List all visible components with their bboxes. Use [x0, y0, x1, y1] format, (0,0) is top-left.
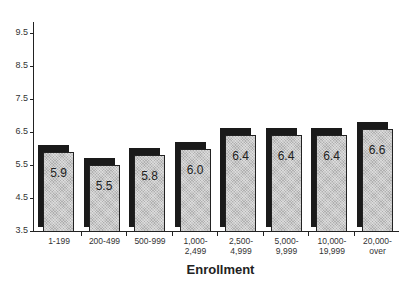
y-tick	[30, 132, 34, 133]
bar-value-label: 6.6	[362, 143, 393, 157]
bar-value-label: 5.8	[134, 169, 165, 183]
bar-value-label: 6.0	[180, 163, 211, 177]
y-tick-label: 8.5	[4, 60, 28, 70]
y-tick	[30, 231, 34, 232]
y-tick-label: 5.5	[4, 159, 28, 169]
x-tick	[354, 231, 355, 236]
bar-value-label: 6.4	[271, 149, 302, 163]
bar-value-label: 5.5	[89, 179, 120, 193]
y-tick-label: 4.5	[4, 192, 28, 202]
x-tick-label: 1-199	[37, 236, 81, 246]
y-tick	[30, 33, 34, 34]
x-tick-label: 2,500-4,999	[219, 236, 263, 256]
bar	[134, 155, 165, 232]
y-tick-label: 6.5	[4, 126, 28, 136]
x-tick	[263, 231, 264, 236]
y-tick	[30, 66, 34, 67]
bar	[180, 149, 211, 233]
bar	[89, 165, 120, 232]
bar-value-label: 5.9	[43, 166, 74, 180]
x-tick-label: 20,000-over	[356, 236, 400, 256]
y-axis	[33, 22, 34, 232]
x-tick	[81, 231, 82, 236]
x-tick	[308, 231, 309, 236]
y-tick-label: 7.5	[4, 93, 28, 103]
x-tick-label: 5,000-9,999	[265, 236, 309, 256]
x-tick	[172, 231, 173, 236]
x-axis-title: Enrollment	[0, 262, 411, 277]
bar-chart: 3.54.55.56.57.58.59.5 5.95.55.86.06.46.4…	[0, 0, 411, 286]
x-tick-label: 1,000-2,499	[174, 236, 218, 256]
x-tick	[126, 231, 127, 236]
x-tick-label: 200-499	[83, 236, 127, 246]
bar	[43, 152, 74, 232]
x-tick-label: 10,000-19,999	[310, 236, 354, 256]
x-tick	[217, 231, 218, 236]
bar-value-label: 6.4	[316, 149, 347, 163]
y-tick	[30, 198, 34, 199]
bar-value-label: 6.4	[225, 149, 256, 163]
x-tick-label: 500-999	[128, 236, 172, 246]
y-tick	[30, 99, 34, 100]
y-tick-label: 9.5	[4, 27, 28, 37]
y-tick	[30, 165, 34, 166]
y-tick-label: 3.5	[4, 225, 28, 235]
